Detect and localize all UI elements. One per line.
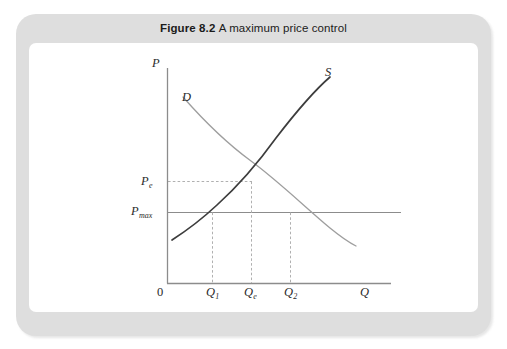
qe-sub: e xyxy=(253,292,257,301)
supply-curve-label: S xyxy=(325,66,331,79)
figure-number: Figure 8.2 xyxy=(160,22,215,34)
q2-tick-label: Q2 xyxy=(284,286,297,299)
equilibrium-price-sub: e xyxy=(149,181,153,190)
y-axis-label: P xyxy=(152,57,160,70)
maximum-price-sub: max xyxy=(139,211,152,220)
maximum-price-label: Pmax xyxy=(131,205,152,218)
figure-root: Figure 8.2 A maximum price control P Q 0… xyxy=(0,0,507,349)
x-axis-label: Q xyxy=(360,286,369,299)
qe-base: Q xyxy=(244,285,253,299)
q1-sub: 1 xyxy=(215,292,219,301)
q2-base: Q xyxy=(284,285,293,299)
equilibrium-price-base: P xyxy=(141,174,149,188)
q1-base: Q xyxy=(206,285,215,299)
maximum-price-base: P xyxy=(131,204,139,218)
figure-caption: A maximum price control xyxy=(219,22,347,34)
q2-sub: 2 xyxy=(293,292,297,301)
figure-title: Figure 8.2 A maximum price control xyxy=(16,22,491,34)
origin-label: 0 xyxy=(157,286,163,299)
q1-tick-label: Q1 xyxy=(206,286,219,299)
demand-curve-label: D xyxy=(182,91,191,104)
equilibrium-price-label: Pe xyxy=(141,175,152,188)
plot-panel xyxy=(29,43,478,312)
qe-tick-label: Qe xyxy=(244,286,257,299)
